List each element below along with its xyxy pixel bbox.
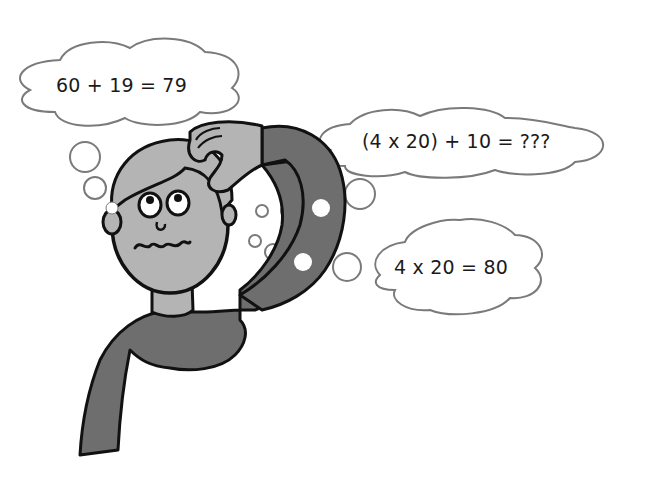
thought-text-3: 4 x 20 = 80	[394, 256, 508, 278]
illustration-canvas	[0, 0, 645, 484]
thought-text-2: (4 x 20) + 10 = ???	[362, 130, 551, 152]
person-head	[103, 140, 236, 293]
thought-text-1: 60 + 19 = 79	[56, 74, 187, 96]
